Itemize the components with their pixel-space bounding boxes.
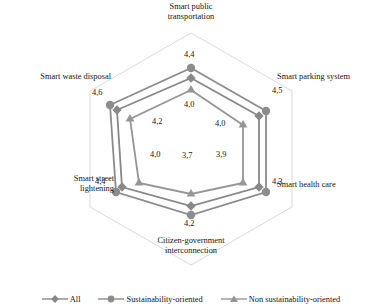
value-label-top-inner: 4,0 bbox=[184, 100, 194, 109]
legend-label-sustainability-oriented: Sustainability-oriented bbox=[126, 295, 202, 304]
legend-item-all[interactable]: All bbox=[42, 294, 81, 304]
axis-label-citizen-government-interconnection: Citizen-government interconnection bbox=[123, 236, 259, 256]
value-label-lower-left-outer: 4,4 bbox=[95, 177, 105, 186]
value-label-bottom-outer: 4,2 bbox=[184, 219, 194, 228]
radar-chart-figure: Smart public transportation Smart parkin… bbox=[0, 0, 382, 308]
value-label-bottom-inner: 3,7 bbox=[182, 151, 192, 160]
triangle-marker-icon bbox=[221, 294, 247, 304]
value-label-lower-right-inner: 3,9 bbox=[216, 150, 226, 159]
value-label-top-outer: 4,4 bbox=[184, 50, 194, 59]
axis-label-smart-public-transportation: Smart public transportation bbox=[131, 2, 251, 22]
value-label-upper-left-outer: 4,6 bbox=[92, 88, 102, 97]
value-label-upper-left-inner: 4,2 bbox=[152, 117, 162, 126]
legend-label-non-sustainability-oriented: Non sustainability-oriented bbox=[249, 295, 340, 304]
value-label-upper-right-outer: 4,5 bbox=[272, 86, 282, 95]
axis-label-smart-health-care: Smart health care bbox=[277, 180, 381, 190]
value-label-upper-right-inner: 4,0 bbox=[215, 119, 225, 128]
legend-label-all: All bbox=[70, 295, 81, 304]
value-label-lower-right-outer: 4,3 bbox=[272, 177, 282, 186]
axis-label-smart-waste-disposal: Smart waste disposal bbox=[3, 72, 111, 82]
legend-item-sustainability-oriented[interactable]: Sustainability-oriented bbox=[98, 294, 202, 304]
legend-item-non-sustainability-oriented[interactable]: Non sustainability-oriented bbox=[221, 294, 340, 304]
value-label-lower-left-inner: 4,0 bbox=[150, 150, 160, 159]
chart-legend: All Sustainability-oriented Non sustaina… bbox=[0, 294, 382, 304]
circle-marker-icon bbox=[98, 294, 124, 304]
axis-label-smart-parking-system: Smart parking system bbox=[277, 72, 381, 82]
diamond-marker-icon bbox=[42, 294, 68, 304]
